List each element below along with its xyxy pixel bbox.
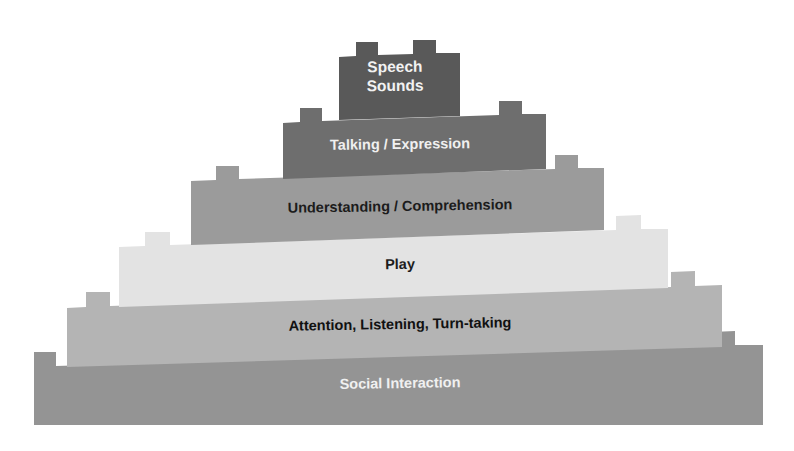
pyramid-shapes: [0, 0, 794, 451]
brick-shape-speech-sounds: [339, 40, 460, 120]
brick-speech-sounds: [339, 40, 460, 120]
communication-pyramid-diagram: Speech Sounds Talking / Expression Under…: [0, 0, 794, 451]
